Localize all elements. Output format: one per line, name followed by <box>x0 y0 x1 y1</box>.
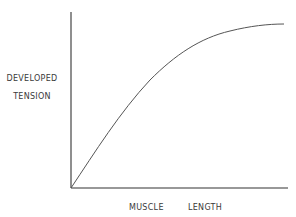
x-axis-label-length: LENGTH <box>188 203 222 212</box>
x-axis-label-muscle: MUSCLE <box>129 203 164 212</box>
y-axis-label: DEVELOPED TENSION <box>4 70 60 106</box>
chart-canvas <box>0 0 296 217</box>
y-axis-label-line2: TENSION <box>4 88 60 106</box>
y-axis-label-line1: DEVELOPED <box>4 70 60 88</box>
tension-length-curve <box>71 24 284 188</box>
